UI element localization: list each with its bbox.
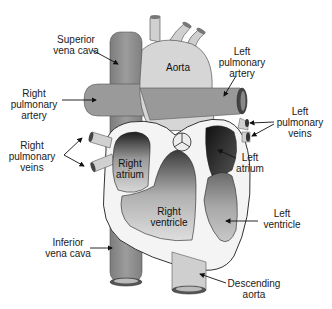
label-right-ventricle: Right ventricle bbox=[144, 206, 194, 228]
label-right-atrium: Right atrium bbox=[112, 158, 148, 180]
label-left-atrium: Left atrium bbox=[232, 152, 268, 174]
label-right-pulmonary-artery: Right pulmonary artery bbox=[4, 88, 64, 121]
label-descending-aorta: Descending aorta bbox=[222, 278, 286, 300]
label-left-ventricle: Left ventricle bbox=[254, 208, 310, 230]
heart-diagram: Superior vena cava Aorta Left pulmonary … bbox=[0, 0, 332, 309]
label-aorta: Aorta bbox=[158, 62, 198, 73]
label-left-pulmonary-veins: Left pulmonary veins bbox=[270, 106, 330, 139]
label-superior-vena-cava: Superior vena cava bbox=[46, 34, 106, 56]
label-right-pulmonary-veins: Right pulmonary veins bbox=[2, 140, 62, 173]
left-pulmonary-artery bbox=[140, 88, 247, 120]
label-left-pulmonary-artery: Left pulmonary artery bbox=[212, 46, 272, 79]
label-inferior-vena-cava: Inferior vena cava bbox=[40, 237, 96, 259]
valve bbox=[173, 133, 191, 151]
